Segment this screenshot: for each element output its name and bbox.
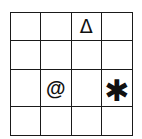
grid-cell-r0-c3 bbox=[102, 13, 132, 41]
grid-cell-r1-c0 bbox=[11, 41, 41, 69]
grid-cell-r3-c2 bbox=[72, 107, 102, 135]
asterisk-icon: ✱ bbox=[102, 76, 132, 107]
triangle-icon: Δ bbox=[72, 13, 102, 41]
symbol-grid: Δ @ ✱ bbox=[10, 12, 133, 136]
grid-cell-r1-c2 bbox=[72, 41, 102, 69]
at-sign-icon: @ bbox=[41, 70, 71, 107]
grid-cell-r2-c0 bbox=[11, 70, 41, 107]
grid-cell-r0-c1 bbox=[41, 13, 71, 41]
grid-cell-r3-c0 bbox=[11, 107, 41, 135]
grid-cell-r1-c3 bbox=[102, 41, 132, 69]
grid-cell-r3-c3 bbox=[102, 107, 132, 135]
grid-cell-r2-c2 bbox=[72, 70, 102, 107]
grid-cell-r3-c1 bbox=[41, 107, 71, 135]
grid-cell-r0-c0 bbox=[11, 13, 41, 41]
grid-cell-r1-c1 bbox=[41, 41, 71, 69]
